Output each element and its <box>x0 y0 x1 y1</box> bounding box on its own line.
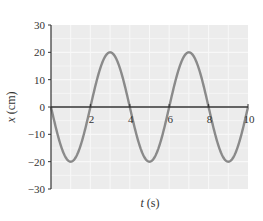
y-tick-label: −20 <box>28 156 46 168</box>
y-tick-label: 0 <box>40 101 46 113</box>
x-tick-label: 2 <box>89 113 95 125</box>
y-axis-unit: (cm) <box>4 92 18 118</box>
y-axis-label: x (cm) <box>4 92 18 124</box>
x-tick-label: 4 <box>128 113 134 125</box>
x-axis-unit: (s) <box>144 196 160 210</box>
y-tick-label: 10 <box>34 74 46 86</box>
x-tick-label: 8 <box>207 113 213 125</box>
x-tick-label: 6 <box>167 113 173 125</box>
y-ticks: 3020100−10−20−30 <box>28 19 51 195</box>
x-axis-label: t (s) <box>140 196 159 210</box>
y-tick-label: −10 <box>28 128 46 140</box>
y-tick-label: 20 <box>34 46 46 58</box>
y-tick-label: 30 <box>34 19 46 31</box>
y-tick-label: −30 <box>28 183 46 195</box>
chart: 3020100−10−20−30 246810 t (s) x (cm) <box>0 0 263 221</box>
x-tick-label: 10 <box>244 113 256 125</box>
